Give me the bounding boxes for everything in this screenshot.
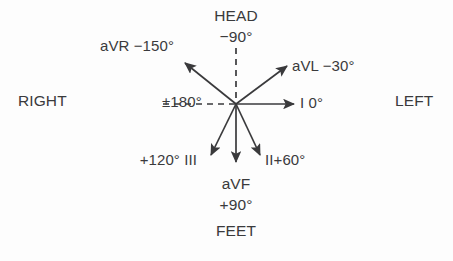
angle-label-plus-90: +90° [220,197,253,213]
feet-orientation-label: FEET [216,223,256,239]
lead-label-ii: II+60° [265,152,305,167]
axis-line-avl [236,66,287,104]
left-orientation-label: LEFT [395,93,433,109]
lead-label-i: I 0° [300,95,323,110]
axis-line-lead-ii [236,104,260,155]
hexaxial-diagram-figure: HEAD −90° aVR −150° aVL −30° RIGHT ±180°… [0,0,453,261]
angle-label-minus-90: −90° [220,29,253,45]
angle-label-plus-minus-180: ±180° [162,94,202,109]
solid-lead-axis-group [185,63,294,162]
lead-label-avr: aVR −150° [100,38,174,53]
lead-label-avf: aVF [222,176,251,192]
head-orientation-label: HEAD [214,8,257,24]
lead-label-iii: +120° III [140,152,197,167]
lead-label-avl: aVL −30° [292,58,355,73]
axis-line-lead-iii [211,104,236,155]
right-orientation-label: RIGHT [18,93,67,109]
